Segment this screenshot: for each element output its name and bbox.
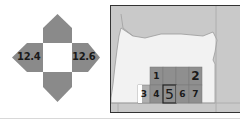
map-panel[interactable]: 1 2 3 4 5 6 7 [110, 5, 240, 113]
grid-cell-1[interactable]: 1 [150, 67, 163, 85]
left-value-label: 12.4 [17, 51, 40, 62]
grid-cell-7[interactable]: 7 [189, 85, 202, 103]
arrow-down-icon[interactable] [43, 72, 72, 102]
grid-cell-5-selected[interactable]: 5 [163, 85, 176, 103]
right-value-label: 12.6 [72, 51, 95, 62]
grid-cell-2[interactable]: 2 [189, 67, 202, 85]
compass-rose: 12.4 12.6 [0, 0, 108, 121]
grid-cell-6[interactable]: 6 [176, 85, 189, 103]
grid-cell-3[interactable]: 3 [138, 85, 150, 103]
grid-cell-4[interactable]: 4 [150, 85, 163, 103]
arrow-up-icon[interactable] [43, 14, 72, 43]
divider [0, 118, 240, 119]
